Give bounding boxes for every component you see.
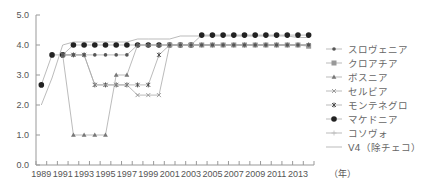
y-tick-label: 5.0 xyxy=(16,10,29,20)
legend-label: マケドニア xyxy=(348,114,398,125)
y-tick-label: 1.0 xyxy=(16,130,29,140)
x-tick-label: 2003 xyxy=(181,169,201,179)
legend-label: V4（除チェコ） xyxy=(348,142,421,153)
series-none xyxy=(41,36,308,105)
legend-item: スロヴェニア xyxy=(326,44,408,55)
legend-label: モンテネグロ xyxy=(348,100,408,111)
x-tick-label: 1999 xyxy=(138,169,158,179)
y-tick-label: 0.0 xyxy=(16,160,29,170)
x-tick-label: 2001 xyxy=(160,169,180,179)
series-asterisk xyxy=(61,43,311,88)
legend-item: クロアチア xyxy=(326,58,398,69)
series-x xyxy=(61,43,311,97)
legend-item: ボスニア xyxy=(326,72,388,83)
legend-label: スロヴェニア xyxy=(348,44,408,55)
x-tick-label: 1989 xyxy=(31,169,51,179)
x-axis-label: （年） xyxy=(329,168,356,179)
line-chart: 0.01.02.03.04.05.01989199119931995199719… xyxy=(0,0,425,190)
y-tick-label: 3.0 xyxy=(16,70,29,80)
x-tick-label: 1991 xyxy=(53,169,73,179)
x-tick-label: 2013 xyxy=(288,169,308,179)
legend-item: V4（除チェコ） xyxy=(326,142,421,153)
x-tick-label: 2005 xyxy=(202,169,222,179)
chart-series xyxy=(39,32,312,137)
legend-item: モンテネグロ xyxy=(326,100,408,111)
legend-item: マケドニア xyxy=(326,114,398,125)
x-tick-label: 2011 xyxy=(267,169,286,179)
legend-item: セルビア xyxy=(326,86,388,97)
x-tick-label: 1995 xyxy=(95,169,115,179)
legend-label: コソヴォ xyxy=(348,128,388,139)
legend-item: コソヴォ xyxy=(326,128,388,139)
x-tick-label: 1993 xyxy=(74,169,94,179)
x-tick-label: 2007 xyxy=(224,169,244,179)
x-tick-label: 1997 xyxy=(117,169,137,179)
y-tick-label: 4.0 xyxy=(16,40,29,50)
legend-label: クロアチア xyxy=(348,58,398,69)
series-square xyxy=(167,43,311,49)
legend-label: ボスニア xyxy=(348,72,388,83)
y-tick-label: 2.0 xyxy=(16,100,29,110)
series-triangle xyxy=(60,42,311,136)
series-circle xyxy=(39,32,312,87)
x-tick-label: 2009 xyxy=(245,169,265,179)
legend-label: セルビア xyxy=(348,86,388,97)
chart-legend: スロヴェニアクロアチアボスニアセルビアモンテネグロマケドニアコソヴォV4（除チェ… xyxy=(326,44,421,153)
